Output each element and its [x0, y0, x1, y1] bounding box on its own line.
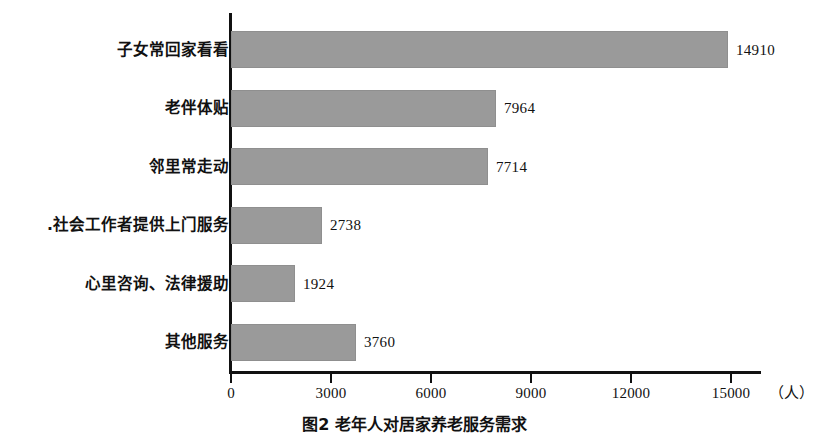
category-label: .社会工作者提供上门服务 — [47, 215, 229, 235]
category-label: 其他服务 — [165, 332, 229, 352]
bar — [231, 324, 356, 361]
x-axis-tick-label: 0 — [227, 384, 235, 402]
x-axis-tick — [730, 374, 732, 383]
bar-row: 其他服务3760 — [0, 324, 829, 361]
x-axis-tick — [630, 374, 632, 383]
bar-row: 老伴体贴7964 — [0, 90, 829, 127]
bar-value-label: 3760 — [364, 333, 395, 351]
x-axis-tick-label: 9000 — [516, 384, 547, 402]
bar-value-label: 7964 — [504, 99, 535, 117]
bar-value-label: 7714 — [496, 157, 527, 175]
x-axis-tick — [530, 374, 532, 383]
bar-row: .社会工作者提供上门服务2738 — [0, 207, 829, 244]
bar-row: 邻里常走动7714 — [0, 148, 829, 185]
bar — [231, 148, 488, 185]
x-axis-tick-label: 12000 — [612, 384, 651, 402]
bar-value-label: 1924 — [303, 274, 334, 292]
figure-caption: 图2 老年人对居家养老服务需求 — [0, 414, 829, 433]
x-axis-tick-label: 6000 — [416, 384, 447, 402]
x-axis-tick — [430, 374, 432, 383]
bar-row: 子女常回家看看14910 — [0, 31, 829, 68]
category-label: 心里咨询、法律援助 — [85, 273, 229, 293]
bar-value-label: 14910 — [736, 40, 775, 58]
bar-value-label: 2738 — [330, 216, 361, 234]
bar — [231, 90, 496, 127]
x-axis-tick-label: 3000 — [316, 384, 347, 402]
x-axis-tick — [330, 374, 332, 383]
bar-row: 心里咨询、法律援助1924 — [0, 265, 829, 302]
category-label: 老伴体贴 — [165, 98, 229, 118]
category-label: 子女常回家看看 — [117, 39, 229, 59]
bar-chart-plot-area: 子女常回家看看14910老伴体贴7964邻里常走动7714.社会工作者提供上门服… — [0, 0, 829, 433]
bar — [231, 265, 295, 302]
figure-container: 子女常回家看看14910老伴体贴7964邻里常走动7714.社会工作者提供上门服… — [0, 0, 829, 433]
bar — [231, 31, 728, 68]
category-label: 邻里常走动 — [149, 156, 229, 176]
bar — [231, 207, 322, 244]
x-axis-tick — [230, 374, 232, 383]
x-axis-tick-label: 15000 — [712, 384, 751, 402]
x-axis-unit-label: （人） — [769, 384, 814, 402]
x-axis-line — [229, 371, 761, 374]
